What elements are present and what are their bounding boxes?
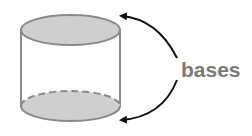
top-base <box>21 15 120 45</box>
arrow-to-top-base <box>121 16 177 58</box>
bases-label: bases <box>181 58 241 81</box>
cylinder <box>21 15 120 121</box>
bottom-base <box>21 91 120 121</box>
cylinder-bases-diagram: bases <box>0 0 252 136</box>
arrow-to-bottom-base <box>121 80 177 120</box>
